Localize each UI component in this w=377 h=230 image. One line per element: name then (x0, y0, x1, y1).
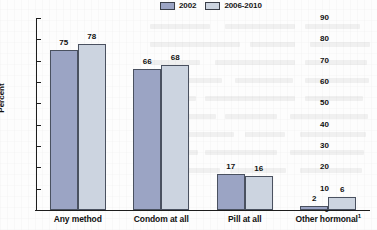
x-axis-label-condom-at-all: Condom at all (120, 214, 204, 224)
legend-label-2006-2010: 2006-2010 (224, 1, 261, 10)
legend-swatch-2006-2010 (205, 2, 220, 10)
bar-other-hormonal-2006-2010 (328, 197, 356, 210)
legend-item-2002: 2002 (160, 1, 196, 10)
bar-any-method-2006-2010 (78, 44, 106, 210)
bar-group: 26 (300, 18, 356, 210)
legend-item-2006-2010: 2006-2010 (205, 1, 261, 10)
bar-pill-at-all-2006-2010 (245, 176, 273, 210)
y-axis-tick (37, 82, 41, 83)
x-axis-label-any-method: Any method (36, 214, 120, 224)
bar-other-hormonal-2002 (300, 206, 328, 210)
bar-value-label: 78 (77, 33, 107, 41)
bar-value-label: 2 (299, 195, 329, 203)
bar-value-label: 68 (160, 54, 190, 62)
x-axis-label-other-hormonal: Other hormonal1 (287, 214, 371, 224)
bar-any-method-2002 (50, 50, 78, 210)
x-axis-line (35, 210, 370, 211)
y-axis-tick (37, 210, 41, 211)
bar-condom-at-all-2006-2010 (161, 65, 189, 210)
bar-pill-at-all-2002 (217, 174, 245, 210)
legend-swatch-2002 (160, 2, 175, 10)
y-axis-tick (37, 125, 41, 126)
y-axis-tick (37, 103, 41, 104)
y-axis-tick (37, 146, 41, 147)
y-axis-tick (37, 167, 41, 168)
y-axis-title: Percent (0, 83, 6, 112)
footnote-marker: 1 (358, 213, 361, 219)
bar-value-label: 17 (216, 163, 246, 171)
bar-group: 7578 (50, 18, 106, 210)
bar-value-label: 66 (132, 58, 162, 66)
bar-value-label: 16 (244, 165, 274, 173)
bar-condom-at-all-2002 (133, 69, 161, 210)
y-axis-tick (37, 18, 41, 19)
bar-group: 1716 (217, 18, 273, 210)
y-axis-tick (37, 39, 41, 40)
plot-area: 9080706050403020100 75786668171626 Any m… (36, 18, 370, 210)
y-axis-tick (37, 61, 41, 62)
bar-value-label: 6 (327, 186, 357, 194)
chart-legend: 2002 2006-2010 (160, 1, 262, 10)
chart-figure: 2002 2006-2010 Percent 90807060504030201… (0, 0, 377, 230)
bar-value-label: 75 (49, 39, 79, 47)
x-axis-label-pill-at-all: Pill at all (203, 214, 287, 224)
y-axis-line (36, 18, 37, 210)
bar-group: 6668 (133, 18, 189, 210)
y-axis-tick (37, 189, 41, 190)
legend-label-2002: 2002 (179, 1, 196, 10)
